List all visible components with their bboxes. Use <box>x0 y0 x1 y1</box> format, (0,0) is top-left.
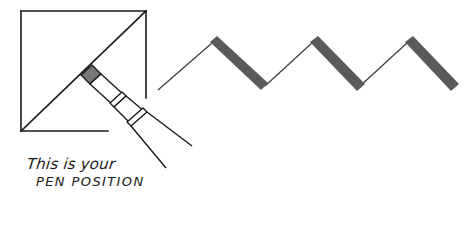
pen-icon <box>81 65 192 168</box>
upstroke-1 <box>158 43 212 90</box>
pen-barrel-lower <box>131 126 166 168</box>
caption-line-1: This is your <box>26 155 116 173</box>
downstroke-2 <box>310 36 365 91</box>
downstroke-1 <box>210 36 268 90</box>
zigzag-stroke <box>158 36 459 91</box>
upstroke-2 <box>265 42 313 86</box>
upstroke-3 <box>360 43 407 86</box>
downstroke-3 <box>405 36 459 91</box>
pen-barrel-upper <box>147 112 192 146</box>
caption-line-2: PEN POSITION <box>36 174 145 189</box>
